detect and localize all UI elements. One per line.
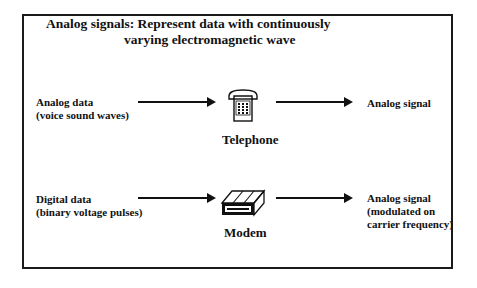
arrow-to-telephone (138, 101, 214, 103)
title-line-1: Analog signals: Represent data with cont… (46, 16, 330, 31)
telephone-label: Telephone (222, 132, 279, 148)
telephone-icon (226, 87, 260, 123)
input-subtitle: (binary voltage pulses) (36, 206, 142, 219)
modem-icon (220, 189, 266, 217)
input-subtitle: (voice sound waves) (36, 109, 129, 122)
arrow-to-modem (138, 197, 214, 199)
output-title: Analog signal (367, 97, 431, 110)
analog-signal-output-2: Analog signal (modulated on carrier freq… (367, 192, 453, 231)
input-title: Digital data (36, 193, 142, 206)
output-subtitle-2: carrier frequency) (367, 218, 453, 231)
input-title: Analog data (36, 96, 129, 109)
analog-signal-output-1: Analog signal (367, 97, 431, 110)
output-subtitle-1: (modulated on (367, 205, 453, 218)
output-title: Analog signal (367, 192, 453, 205)
digital-data-label: Digital data (binary voltage pulses) (36, 193, 142, 219)
analog-data-label: Analog data (voice sound waves) (36, 96, 129, 122)
title-line-2: varying electromagnetic wave (46, 32, 346, 48)
arrow-from-modem (276, 197, 351, 199)
diagram-title: Analog signals: Represent data with cont… (46, 16, 346, 48)
arrow-from-telephone (276, 101, 351, 103)
modem-label: Modem (224, 225, 267, 241)
